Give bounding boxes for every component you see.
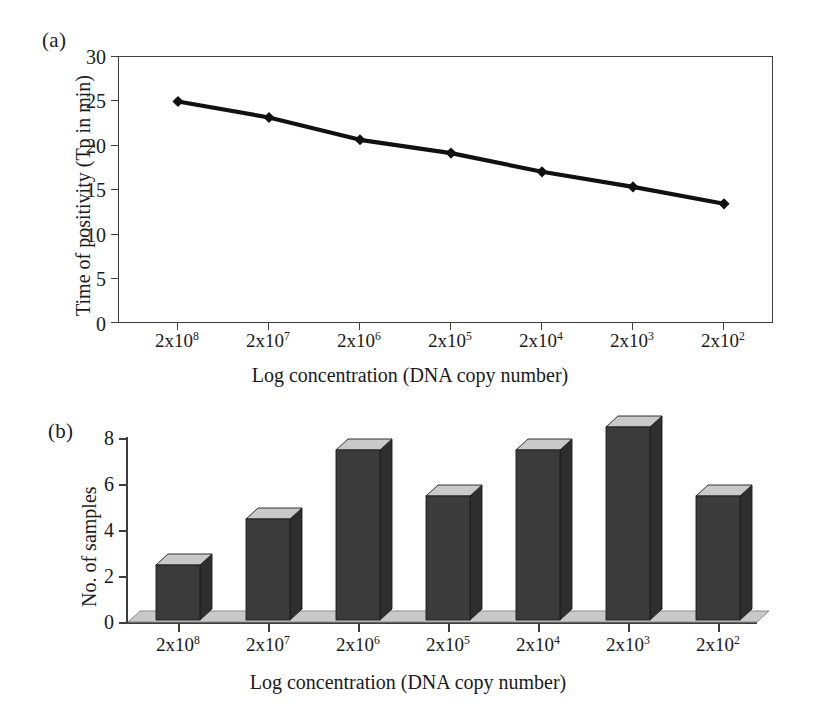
panel-a-plot-area (118, 56, 773, 323)
panel-b-xtick-mark-6 (718, 624, 720, 632)
panel-a-data-point-5 (627, 181, 638, 192)
panel-b-bar-side-6 (740, 485, 752, 620)
panel-b-bar-front-1 (246, 519, 290, 620)
panel-a-xtick-label-1: 2x107 (218, 331, 318, 350)
panel-a-xtick-label-0: 2x108 (127, 331, 227, 350)
panel-a-ytick-mark-15 (111, 189, 118, 190)
panel-a-data-point-3 (445, 148, 456, 159)
panel-b-bar-front-4 (516, 450, 560, 620)
panel-a-xtick-label-6: 2x102 (673, 331, 773, 350)
panel-b-xtick-mark-4 (538, 624, 540, 632)
panel-a-series-svg (119, 57, 774, 324)
panel-a-ytick-label-25: 25 (58, 91, 106, 111)
panel-a-xtick-label-3: 2x105 (400, 331, 500, 350)
panel-a-ytick-mark-0 (111, 322, 118, 323)
panel-b-bar-3 (426, 485, 482, 620)
panel-a-ytick-label-0: 0 (58, 314, 106, 334)
panel-a-ytick-label-20: 20 (58, 136, 106, 156)
panel-a-ytick-label-15: 15 (58, 180, 106, 200)
panel-b-xtick-label-4: 2x104 (488, 635, 588, 654)
panel-a-ytick-mark-10 (111, 234, 118, 235)
panel-b-xtick-mark-0 (178, 624, 180, 632)
panel-b-bar-side-2 (380, 439, 392, 620)
panel-a-data-point-6 (718, 198, 729, 209)
panel-a-ytick-mark-20 (111, 145, 118, 146)
panel-b-bar-1 (246, 508, 302, 620)
panel-a-data-point-0 (172, 96, 183, 107)
panel-b-bar-side-5 (650, 416, 662, 620)
panel-b-bar-front-0 (156, 565, 200, 620)
panel-b-xtick-label-2: 2x106 (308, 635, 408, 654)
panel-b-bar-0 (156, 554, 212, 620)
figure-container: (a) Time of positivity (Tp in min) 30 25… (0, 0, 819, 720)
panel-a-xtick-mark-1 (268, 323, 269, 330)
panel-b-xtick-label-5: 2x103 (578, 635, 678, 654)
panel-b-xtick-mark-3 (448, 624, 450, 632)
panel-b-bar-front-3 (426, 496, 470, 620)
panel-a-line-chart: (a) Time of positivity (Tp in min) 30 25… (0, 0, 819, 395)
panel-b-bar-2 (336, 439, 392, 620)
panel-b-bar-chart: (b) No. of samples 8 6 4 2 0 2x1082x1072… (0, 395, 819, 720)
panel-a-ytick-mark-5 (111, 278, 118, 279)
panel-a-ytick-label-5: 5 (58, 269, 106, 289)
panel-a-xtick-mark-6 (723, 323, 724, 330)
panel-a-data-point-4 (536, 166, 547, 177)
panel-a-ytick-mark-25 (111, 100, 118, 101)
panel-b-xtick-mark-2 (358, 624, 360, 632)
panel-a-xtick-mark-5 (632, 323, 633, 330)
panel-b-bar-front-2 (336, 450, 380, 620)
panel-b-bar-front-5 (606, 427, 650, 620)
panel-a-xtick-label-2: 2x106 (309, 331, 409, 350)
panel-a-ytick-label-10: 10 (58, 225, 106, 245)
panel-a-ytick-label-30: 30 (58, 47, 106, 67)
panel-b-xtick-mark-5 (628, 624, 630, 632)
panel-b-bar-front-6 (696, 496, 740, 620)
panel-b-bar-5 (606, 416, 662, 620)
panel-b-bars-group (156, 416, 752, 620)
panel-a-data-markers (172, 96, 729, 210)
panel-a-xtick-label-4: 2x104 (491, 331, 591, 350)
panel-b-xtick-label-0: 2x108 (128, 635, 228, 654)
panel-a-x-axis-title: Log concentration (DNA copy number) (150, 364, 670, 387)
panel-b-xtick-label-1: 2x107 (218, 635, 318, 654)
panel-b-bar-side-3 (470, 485, 482, 620)
panel-b-bar-4 (516, 439, 572, 620)
panel-a-xtick-mark-2 (359, 323, 360, 330)
panel-b-xtick-label-6: 2x102 (668, 635, 768, 654)
panel-a-xtick-mark-0 (177, 323, 178, 330)
panel-b-bar-side-4 (560, 439, 572, 620)
panel-b-xtick-label-3: 2x105 (398, 635, 498, 654)
panel-a-xtick-mark-3 (450, 323, 451, 330)
panel-b-x-axis-title: Log concentration (DNA copy number) (148, 671, 668, 694)
panel-a-data-point-1 (263, 112, 274, 123)
panel-a-data-point-2 (354, 134, 365, 145)
panel-a-ytick-mark-30 (111, 56, 118, 57)
panel-b-xtick-mark-1 (268, 624, 270, 632)
panel-b-bar-side-1 (290, 508, 302, 620)
panel-a-xtick-label-5: 2x103 (582, 331, 682, 350)
panel-a-xtick-mark-4 (541, 323, 542, 330)
panel-b-bar-6 (696, 485, 752, 620)
